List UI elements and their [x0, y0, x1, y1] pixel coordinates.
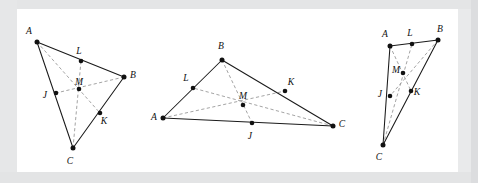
point-label-K: K — [287, 76, 295, 87]
point-L — [410, 42, 415, 47]
cevian-CL — [73, 61, 81, 148]
cevian-CL — [383, 44, 412, 145]
point-M — [77, 87, 82, 92]
point-label-A: A — [25, 25, 32, 36]
diagram-canvas: ABCJKLMABCJKLMABCJKLM — [0, 0, 478, 183]
point-label-J: J — [248, 130, 253, 141]
point-label-C: C — [67, 155, 74, 166]
point-C — [71, 146, 76, 151]
figure-root: ABCJKLMABCJKLMABCJKLM — [0, 0, 478, 183]
point-C — [331, 124, 336, 129]
point-label-L: L — [182, 72, 188, 83]
cevian-AK — [37, 42, 100, 113]
point-label-B: B — [437, 23, 443, 34]
point-A — [161, 116, 166, 121]
point-label-M: M — [74, 76, 84, 87]
point-M — [401, 71, 406, 76]
point-J — [54, 91, 59, 96]
point-label-L: L — [75, 45, 81, 56]
cevian-AK — [163, 91, 285, 118]
point-label-C: C — [339, 118, 346, 129]
point-label-M: M — [238, 90, 248, 101]
point-B — [122, 75, 127, 80]
triangle-group-triangle-middle: ABCJKLM — [150, 40, 346, 141]
triangle-group-triangle-left: ABCJKLM — [25, 25, 136, 166]
point-label-A: A — [381, 28, 388, 39]
point-label-B: B — [130, 69, 136, 80]
point-label-L: L — [406, 27, 412, 38]
point-A — [35, 40, 40, 45]
point-J — [250, 121, 255, 126]
point-label-A: A — [150, 111, 157, 122]
point-B — [220, 58, 225, 63]
edge-CA — [163, 118, 333, 126]
point-M — [241, 103, 246, 108]
point-label-J: J — [43, 89, 48, 100]
point-L — [191, 86, 196, 91]
point-K — [283, 89, 288, 94]
point-label-K: K — [100, 115, 108, 126]
point-K — [409, 89, 414, 94]
point-label-K: K — [413, 86, 421, 97]
point-B — [436, 38, 441, 43]
point-C — [381, 143, 386, 148]
point-label-M: M — [391, 64, 401, 75]
point-J — [388, 94, 393, 99]
point-L — [79, 59, 84, 64]
point-label-C: C — [376, 151, 383, 162]
point-label-J: J — [378, 88, 383, 99]
triangle-group-triangle-right: ABCJKLM — [376, 23, 443, 162]
point-label-B: B — [218, 40, 224, 51]
point-A — [388, 44, 393, 49]
